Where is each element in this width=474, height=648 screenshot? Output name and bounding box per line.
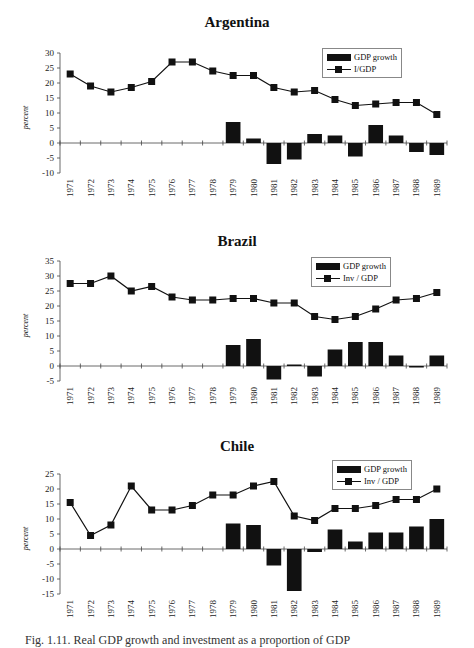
svg-text:10: 10 — [45, 514, 55, 524]
legend-item: Inv / GDP — [316, 272, 386, 284]
svg-text:0: 0 — [50, 361, 55, 371]
svg-text:1986: 1986 — [371, 387, 381, 406]
legend-label: I/GDP — [354, 63, 376, 75]
svg-text:1974: 1974 — [126, 179, 136, 198]
legend-label: GDP growth — [364, 463, 407, 475]
svg-text:1974: 1974 — [126, 387, 136, 406]
svg-text:1984: 1984 — [330, 387, 340, 406]
svg-text:1975: 1975 — [147, 387, 157, 406]
svg-text:1985: 1985 — [350, 387, 360, 406]
svg-text:35: 35 — [45, 256, 55, 266]
svg-text:1973: 1973 — [106, 179, 116, 198]
svg-text:1975: 1975 — [147, 179, 157, 198]
svg-text:1976: 1976 — [167, 600, 177, 619]
svg-text:-5: -5 — [47, 376, 55, 386]
svg-text:5: 5 — [50, 529, 55, 539]
svg-text:1980: 1980 — [249, 387, 259, 406]
svg-text:1987: 1987 — [391, 600, 401, 619]
bar-swatch-icon — [327, 54, 351, 61]
svg-text:1987: 1987 — [391, 179, 401, 198]
chart-chile: Chilepercent2520151050-5-10-151971197219… — [0, 430, 474, 640]
svg-text:1988: 1988 — [411, 179, 421, 198]
chart-brazil: Brazilpercent35302520151050-519711972197… — [0, 225, 474, 435]
bar-swatch-icon — [316, 263, 340, 270]
svg-text:-10: -10 — [42, 168, 54, 178]
svg-text:20: 20 — [45, 301, 55, 311]
svg-text:1977: 1977 — [187, 179, 197, 198]
svg-text:1984: 1984 — [330, 600, 340, 619]
plot-area: 35302520151050-5197119721973197419751976… — [0, 225, 474, 435]
legend-item: GDP growth — [327, 51, 397, 63]
svg-text:1981: 1981 — [269, 600, 279, 618]
line-marker-icon — [327, 66, 351, 73]
svg-text:10: 10 — [45, 108, 55, 118]
legend-item: GDP growth — [316, 260, 386, 272]
legend-label: Inv / GDP — [343, 272, 378, 284]
svg-text:5: 5 — [50, 346, 55, 356]
svg-text:-10: -10 — [42, 574, 54, 584]
legend-item: Inv / GDP — [337, 475, 407, 487]
bar-swatch-icon — [337, 466, 361, 473]
chart-legend: GDP growthInv / GDP — [311, 257, 391, 287]
svg-text:0: 0 — [50, 544, 55, 554]
line-marker-icon — [337, 478, 361, 485]
svg-text:1982: 1982 — [289, 600, 299, 618]
svg-text:0: 0 — [50, 138, 55, 148]
svg-text:15: 15 — [45, 499, 55, 509]
chart-legend: GDP growthI/GDP — [322, 48, 402, 78]
svg-text:1986: 1986 — [371, 179, 381, 198]
svg-text:1977: 1977 — [187, 387, 197, 406]
svg-text:1983: 1983 — [310, 600, 320, 619]
svg-text:1979: 1979 — [228, 600, 238, 619]
svg-text:1972: 1972 — [86, 600, 96, 618]
svg-text:1978: 1978 — [208, 179, 218, 198]
svg-text:1982: 1982 — [289, 179, 299, 197]
svg-text:1978: 1978 — [208, 600, 218, 619]
svg-text:1976: 1976 — [167, 179, 177, 198]
svg-text:1979: 1979 — [228, 179, 238, 198]
svg-text:1989: 1989 — [432, 600, 442, 619]
legend-label: GDP growth — [354, 51, 397, 63]
svg-text:25: 25 — [45, 286, 55, 296]
svg-text:1971: 1971 — [65, 387, 75, 405]
svg-text:1989: 1989 — [432, 179, 442, 198]
svg-text:1971: 1971 — [65, 179, 75, 197]
svg-text:20: 20 — [45, 484, 55, 494]
figure-caption: Fig. 1.11. Real GDP growth and investmen… — [25, 633, 350, 648]
chart-argentina: Argentinapercent302520151050-5-101971197… — [0, 0, 474, 210]
svg-text:1984: 1984 — [330, 179, 340, 198]
svg-text:1983: 1983 — [310, 387, 320, 406]
svg-text:1987: 1987 — [391, 387, 401, 406]
svg-text:25: 25 — [45, 469, 55, 479]
svg-text:1985: 1985 — [350, 179, 360, 198]
legend-item: GDP growth — [337, 463, 407, 475]
svg-text:1979: 1979 — [228, 387, 238, 406]
svg-text:30: 30 — [45, 48, 55, 58]
svg-text:1986: 1986 — [371, 600, 381, 619]
svg-text:1977: 1977 — [187, 600, 197, 619]
svg-text:-15: -15 — [42, 589, 54, 599]
svg-text:1976: 1976 — [167, 387, 177, 406]
legend-label: GDP growth — [343, 260, 386, 272]
svg-text:1978: 1978 — [208, 387, 218, 406]
svg-text:1973: 1973 — [106, 387, 116, 406]
chart-legend: GDP growthInv / GDP — [332, 460, 412, 490]
svg-text:1972: 1972 — [86, 179, 96, 197]
svg-text:1972: 1972 — [86, 387, 96, 405]
svg-text:1980: 1980 — [249, 179, 259, 198]
line-marker-icon — [316, 275, 340, 282]
svg-text:1982: 1982 — [289, 387, 299, 405]
svg-text:25: 25 — [45, 63, 55, 73]
svg-text:5: 5 — [50, 123, 55, 133]
svg-text:15: 15 — [45, 316, 55, 326]
svg-text:1989: 1989 — [432, 387, 442, 406]
svg-text:1971: 1971 — [65, 600, 75, 618]
legend-item: I/GDP — [327, 63, 397, 75]
svg-text:10: 10 — [45, 331, 55, 341]
svg-text:1975: 1975 — [147, 600, 157, 619]
svg-text:1983: 1983 — [310, 179, 320, 198]
svg-text:30: 30 — [45, 271, 55, 281]
svg-text:1985: 1985 — [350, 600, 360, 619]
svg-text:-5: -5 — [47, 153, 55, 163]
svg-text:20: 20 — [45, 78, 55, 88]
